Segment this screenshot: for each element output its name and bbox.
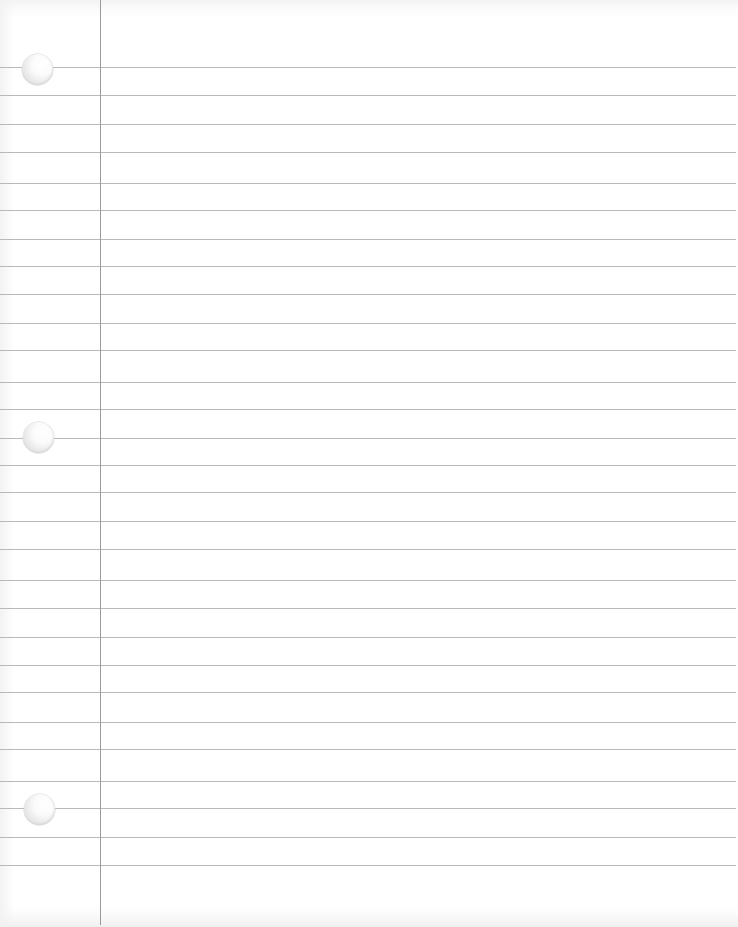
rule-line [0,837,736,838]
rule-line [0,781,736,782]
rule-line [0,152,736,153]
rule-line [0,521,736,522]
rule-line [0,323,736,324]
rule-line [0,382,736,383]
rule-line [0,95,736,96]
rule-line [0,549,736,550]
rule-line [0,749,736,750]
rule-line [0,294,736,295]
notebook-paper [0,0,738,927]
rule-line [0,808,736,809]
rule-line [0,239,736,240]
rule-line [0,124,736,125]
binder-hole-icon [22,54,53,85]
rule-line [0,492,736,493]
rule-line [0,637,736,638]
rule-line [0,409,736,410]
margin-line [100,0,101,925]
rule-line [0,692,736,693]
rule-line [0,266,736,267]
rule-line [0,465,736,466]
rule-line [0,183,736,184]
rule-line [0,580,736,581]
rule-line [0,438,736,439]
rule-line [0,210,736,211]
rule-line [0,608,736,609]
binder-hole-icon [23,422,54,453]
rule-line [0,67,736,68]
rule-line [0,865,736,866]
rule-line [0,722,736,723]
binder-hole-icon [24,794,55,825]
rule-line [0,350,736,351]
rule-line [0,665,736,666]
